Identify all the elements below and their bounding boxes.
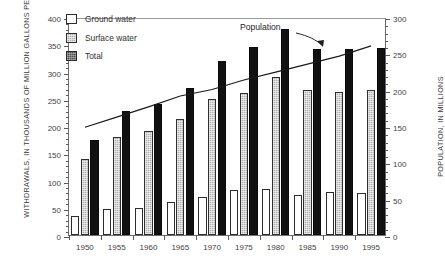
y2-tick-label: 150 <box>393 124 406 133</box>
chart-legend: Ground waterSurface waterTotal <box>66 14 137 61</box>
x-tick-label: 1985 <box>299 243 317 252</box>
legend-item-1: Surface water <box>66 33 137 43</box>
y-tick-label: 300 <box>48 69 61 78</box>
legend-item-2: Total <box>66 51 137 61</box>
y-axis-right-title: POPULATION, IN MILLIONS <box>436 32 445 222</box>
population-annotation-label: Population <box>240 22 281 32</box>
y2-tick-label: 300 <box>393 15 406 24</box>
y-tick-label: 350 <box>48 42 61 51</box>
legend-swatch-gray-stipple <box>66 33 77 43</box>
y2-tick-label: 250 <box>393 51 406 60</box>
y2-tick-label: 200 <box>393 87 406 96</box>
legend-label: Total <box>85 51 103 61</box>
legend-swatch-white <box>66 14 77 24</box>
legend-swatch-dark-stipple <box>66 51 77 61</box>
y-tick-label: 0 <box>57 233 61 242</box>
legend-label: Surface water <box>85 33 137 43</box>
y-tick-label: 50 <box>52 205 61 214</box>
y2-tick-label: 50 <box>393 196 402 205</box>
y-tick-label: 400 <box>48 15 61 24</box>
x-tick-label: 1955 <box>108 243 126 252</box>
y2-tick-label: 0 <box>393 233 397 242</box>
x-tick-label: 1970 <box>203 243 221 252</box>
x-tick-label: 1975 <box>235 243 253 252</box>
y-tick-label: 200 <box>48 124 61 133</box>
x-tick-label: 1965 <box>171 243 189 252</box>
x-tick-label: 1960 <box>140 243 158 252</box>
legend-item-0: Ground water <box>66 14 137 24</box>
y-tick-label: 100 <box>48 178 61 187</box>
x-tick-label: 1980 <box>267 243 285 252</box>
y2-tick-major <box>385 237 390 238</box>
x-tick-label: 1990 <box>330 243 348 252</box>
y-tick-label: 250 <box>48 96 61 105</box>
y-axis-left-title: WITHDRAWALS, IN THOUSANDS OF MILLION GAL… <box>22 28 32 218</box>
legend-label: Ground water <box>85 14 136 24</box>
y-tick-label: 150 <box>48 151 61 160</box>
y2-tick-label: 100 <box>393 160 406 169</box>
x-tick-label: 1995 <box>362 243 380 252</box>
x-tick-label: 1950 <box>76 243 94 252</box>
